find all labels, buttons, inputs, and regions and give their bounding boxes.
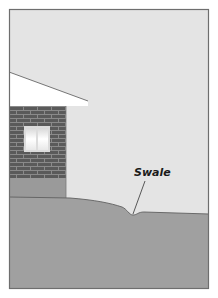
window	[24, 126, 50, 152]
swale-label: Swale	[134, 166, 171, 179]
swale-diagram: Swale	[0, 0, 218, 298]
foundation	[9, 178, 66, 198]
